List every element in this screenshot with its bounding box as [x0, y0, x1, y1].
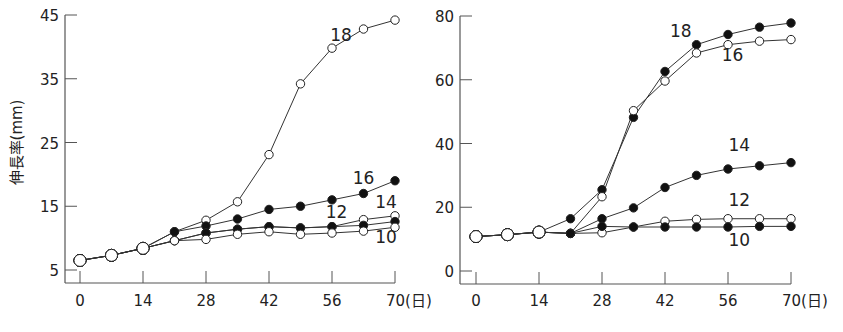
data-point: [566, 229, 574, 237]
series-line-18: [80, 20, 395, 260]
data-point: [566, 215, 574, 223]
data-point: [328, 229, 336, 237]
data-point: [755, 37, 763, 45]
data-point: [296, 202, 304, 210]
data-point: [502, 229, 514, 241]
data-point: [661, 223, 669, 231]
data-point: [692, 215, 700, 223]
data-point: [470, 231, 482, 243]
data-point: [787, 215, 795, 223]
data-point: [74, 254, 86, 266]
series-label-14: 14: [728, 135, 750, 155]
y-tick-label: 60: [435, 72, 454, 90]
data-point: [724, 165, 732, 173]
data-point: [359, 227, 367, 235]
data-point: [265, 150, 273, 158]
y-tick-label: 40: [435, 136, 454, 154]
data-point: [787, 222, 795, 230]
series-label-14: 14: [375, 192, 397, 212]
chart-left-non-aerated: 51525354501428425670(日)伸長率(mm)1816141210…: [0, 0, 843, 332]
data-point: [787, 19, 795, 27]
data-point: [787, 35, 795, 43]
data-point: [661, 67, 669, 75]
data-point: [359, 189, 367, 197]
series-label-18: 18: [330, 25, 352, 45]
data-point: [391, 177, 399, 185]
data-point: [755, 215, 763, 223]
data-point: [755, 222, 763, 230]
x-tick-label: 70(日): [386, 292, 432, 310]
series-label-18: 18: [670, 21, 692, 41]
data-point: [692, 49, 700, 57]
data-point: [629, 204, 637, 212]
series-label-16: 16: [722, 45, 744, 65]
data-point: [233, 230, 241, 238]
x-tick-label: 28: [196, 292, 215, 310]
series-label-10: 10: [375, 227, 397, 247]
data-point: [755, 23, 763, 31]
y-tick-label: 0: [444, 263, 454, 281]
series-label-12: 12: [728, 190, 750, 210]
data-point: [391, 16, 399, 24]
data-point: [787, 158, 795, 166]
data-point: [202, 235, 210, 243]
x-tick-label: 56: [322, 292, 341, 310]
x-tick-label: 56: [718, 292, 737, 310]
data-point: [598, 193, 606, 201]
data-point: [265, 205, 273, 213]
data-point: [598, 222, 606, 230]
data-point: [233, 215, 241, 223]
data-point: [661, 77, 669, 85]
data-point: [755, 162, 763, 170]
x-tick-label: 42: [655, 292, 674, 310]
y-tick-label: 25: [40, 135, 59, 153]
data-point: [106, 249, 118, 261]
y-tick-label: 35: [40, 71, 59, 89]
data-point: [359, 25, 367, 33]
data-point: [265, 228, 273, 236]
x-tick-label: 0: [471, 292, 481, 310]
data-point: [629, 223, 637, 231]
x-tick-label: 14: [529, 292, 548, 310]
left-chart: 51525354501428425670(日)伸長率(mm)1816141210: [8, 7, 432, 310]
data-point: [328, 44, 336, 52]
data-point: [661, 183, 669, 191]
y-tick-label: 15: [40, 198, 59, 216]
data-point: [598, 215, 606, 223]
x-tick-label: 28: [592, 292, 611, 310]
y-tick-label: 5: [49, 262, 59, 280]
data-point: [724, 30, 732, 38]
y-tick-label: 20: [435, 199, 454, 217]
data-point: [137, 242, 149, 254]
data-point: [692, 223, 700, 231]
data-point: [692, 171, 700, 179]
y-tick-label: 45: [40, 7, 59, 25]
data-point: [233, 198, 241, 206]
series-label-12: 12: [326, 202, 348, 222]
data-point: [533, 226, 545, 238]
chart-figure: 51525354501428425670(日)伸長率(mm)1816141210…: [0, 0, 843, 332]
y-axis-label: 伸長率(mm): [8, 100, 26, 186]
data-point: [170, 236, 178, 244]
x-tick-label: 14: [133, 292, 152, 310]
x-tick-label: 0: [75, 292, 85, 310]
right-chart: 02040608001428425670(日)1816141210: [435, 8, 828, 310]
x-tick-label: 70(日): [782, 292, 828, 310]
data-point: [692, 40, 700, 48]
data-point: [170, 228, 178, 236]
series-label-10: 10: [728, 230, 750, 250]
data-point: [296, 80, 304, 88]
y-tick-label: 80: [435, 8, 454, 26]
data-point: [724, 215, 732, 223]
x-tick-label: 42: [259, 292, 278, 310]
data-point: [296, 230, 304, 238]
data-point: [629, 106, 637, 114]
series-label-16: 16: [353, 168, 375, 188]
